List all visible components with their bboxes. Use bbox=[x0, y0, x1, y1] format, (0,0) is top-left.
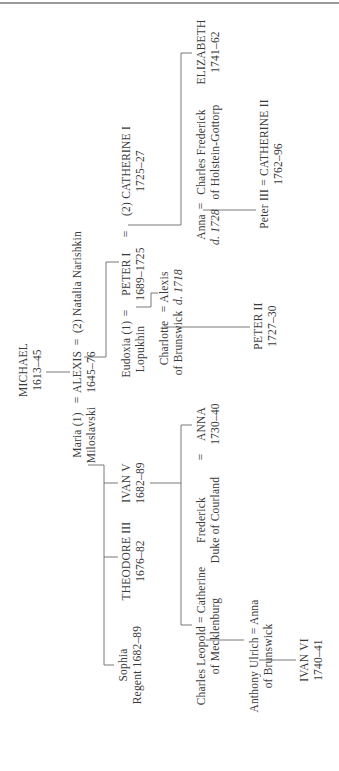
alexis-jr-line2: d. 1718 bbox=[171, 265, 185, 309]
person-alexis-jr: Alexis d. 1718 bbox=[157, 265, 185, 309]
ivan-v-name: IVAN V bbox=[119, 459, 133, 507]
person-ivan-v: IVAN V 1682–89 bbox=[119, 459, 147, 507]
anna-ivanovna-name: ANNA bbox=[194, 401, 208, 447]
marriage-peter-catherine: = bbox=[119, 225, 133, 243]
charles-leopold-line2: of Mecklenburg bbox=[208, 561, 222, 711]
michael-name: MICHAEL bbox=[16, 340, 30, 400]
anna-ivanovna-dates: 1730–40 bbox=[208, 401, 222, 447]
maria-line2: Miloslavski bbox=[84, 405, 98, 465]
frederick-line2: Duke of Courland bbox=[208, 465, 222, 575]
marriage-symbol: = bbox=[119, 304, 133, 322]
marriage-symbol: = bbox=[194, 448, 208, 466]
person-charles-frederick: Charles Frederick of Holstein-Gottorp bbox=[194, 97, 222, 207]
theodore-name: THEODORE III bbox=[119, 521, 133, 601]
charlotte-line2: of Brunswick bbox=[171, 310, 185, 376]
ivan-vi-dates: 1740–41 bbox=[311, 635, 325, 685]
elizabeth-name: ELIZABETH bbox=[194, 17, 208, 87]
anthony-ulrich-name: Anthony Ulrich = Anna bbox=[247, 591, 261, 721]
person-frederick-courland: Frederick Duke of Courland bbox=[194, 465, 222, 575]
person-peter-ii: PETER II 1727–30 bbox=[251, 299, 279, 353]
peter-ii-name: PETER II bbox=[251, 299, 265, 353]
person-maria: Maria (1) Miloslavski bbox=[70, 405, 98, 465]
ivan-v-dates: 1682–89 bbox=[133, 459, 147, 507]
eudoxia-name: Eudoxia (1) bbox=[119, 320, 133, 378]
charlotte-name: Charlotte bbox=[157, 310, 171, 376]
sophia-line2: Regent 1682–89 bbox=[130, 625, 144, 705]
catherine-ii-dates: 1762–96 bbox=[271, 89, 285, 239]
person-anna-ivanovna: ANNA 1730–40 bbox=[194, 401, 222, 447]
line-natalia-peter bbox=[84, 262, 119, 357]
person-theodore-iii: THEODORE III 1676–82 bbox=[119, 521, 147, 601]
anna-petrovna-line2: d. 1728 bbox=[208, 207, 222, 247]
person-ivan-vi: IVAN VI 1740–41 bbox=[297, 635, 325, 685]
theodore-dates: 1676–82 bbox=[133, 521, 147, 601]
person-charlotte: Charlotte of Brunswick bbox=[157, 310, 185, 376]
alexis-dates: 1645–76 bbox=[84, 347, 98, 397]
marriage-symbol: = bbox=[70, 391, 84, 409]
peter-i-name: PETER I bbox=[119, 243, 133, 305]
person-peter-iii-catherine-ii: Peter III = CATHERINE II 1762–96 bbox=[257, 89, 285, 239]
person-natalia: (2) Natalia Narishkin bbox=[70, 231, 84, 333]
ivan-vi-name: IVAN VI bbox=[297, 635, 311, 685]
peter-ii-dates: 1727–30 bbox=[265, 299, 279, 353]
charles-frederick-name: Charles Frederick bbox=[194, 97, 208, 207]
alexis-name: ALEXIS bbox=[70, 347, 84, 397]
person-sophia: Sophia Regent 1682–89 bbox=[116, 625, 144, 705]
person-eudoxia: Eudoxia (1) Lopukhin bbox=[119, 320, 147, 378]
maria-name: Maria (1) bbox=[70, 405, 84, 465]
family-tree-canvas: MICHAEL 1613–45 ALEXIS 1645–76 = (2) Nat… bbox=[0, 0, 339, 771]
person-charles-leopold-catherine: Charles Leopold = Catherine of Mecklenbu… bbox=[194, 561, 222, 711]
person-michael: MICHAEL 1613–45 bbox=[16, 340, 44, 400]
marriage-maria-alexis: = bbox=[70, 391, 84, 409]
michael-dates: 1613–45 bbox=[30, 340, 44, 400]
frederick-name: Frederick bbox=[194, 465, 208, 575]
marriage-eudoxia-peter: = bbox=[119, 304, 133, 322]
alexis-jr-name: Alexis bbox=[157, 265, 171, 309]
charles-frederick-line2: of Holstein-Gottorp bbox=[208, 97, 222, 207]
connector-lines bbox=[0, 0, 339, 771]
person-catherine-i: (2) CATHERINE I 1725–27 bbox=[119, 119, 147, 223]
peter-iii-catherine-ii-name: Peter III = CATHERINE II bbox=[257, 89, 271, 239]
sophia-name: Sophia bbox=[116, 625, 130, 705]
anthony-ulrich-line2: of Brunswick bbox=[261, 591, 275, 721]
charles-leopold-name: Charles Leopold = Catherine bbox=[194, 561, 208, 711]
catherine-i-dates: 1725–27 bbox=[133, 119, 147, 223]
marriage-alexis-natalia: = bbox=[70, 333, 84, 351]
eudoxia-line2: Lopukhin bbox=[133, 320, 147, 378]
marriage-frederick-anna: = bbox=[194, 448, 208, 466]
catherine-i-name: (2) CATHERINE I bbox=[119, 119, 133, 223]
person-elizabeth: ELIZABETH 1741–62 bbox=[194, 17, 222, 87]
natalia-name: (2) Natalia Narishkin bbox=[71, 231, 83, 333]
marriage-symbol: = bbox=[119, 225, 133, 243]
person-anthony-ulrich-anna: Anthony Ulrich = Anna of Brunswick bbox=[247, 591, 275, 721]
person-peter-i: PETER I 1689–1725 bbox=[119, 243, 147, 305]
person-alexis: ALEXIS 1645–76 bbox=[70, 347, 98, 397]
elizabeth-dates: 1741–62 bbox=[208, 17, 222, 87]
marriage-symbol: = bbox=[70, 333, 84, 351]
peter-i-dates: 1689–1725 bbox=[133, 243, 147, 305]
